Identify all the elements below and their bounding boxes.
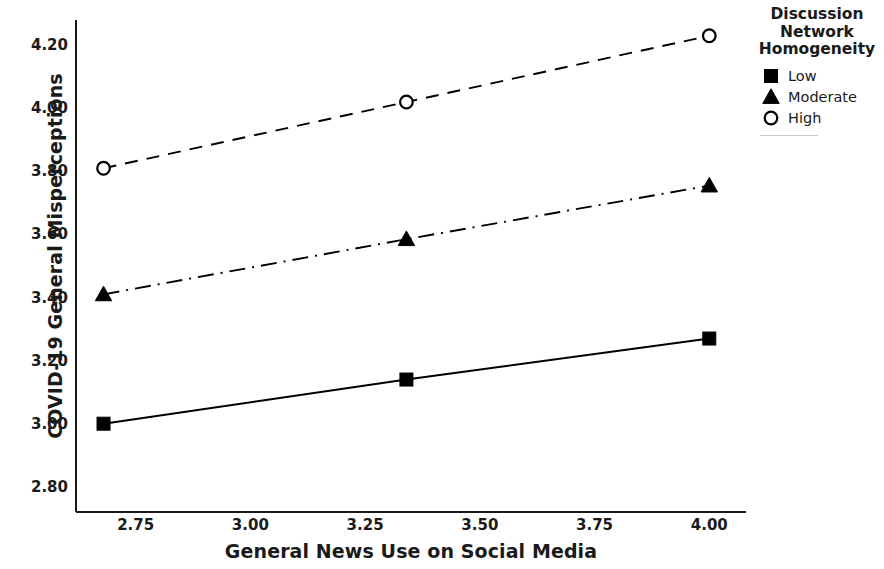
data-point-marker [400,96,413,109]
legend-item-label: High [788,110,821,126]
x-tick-label: 3.00 [215,516,285,534]
series-moderate [95,177,717,300]
x-tick-label: 2.75 [101,516,171,534]
legend-item-label: Low [788,68,817,84]
data-point-marker [765,70,778,83]
x-tick-label: 3.50 [445,516,515,534]
x-axis-title: General News Use on Social Media [76,540,746,562]
data-point-marker [400,373,413,386]
legend-item-label: Moderate [788,89,857,105]
legend-divider [760,135,818,136]
x-tick-label: 4.00 [674,516,744,534]
filled-triangle-icon [758,87,784,107]
x-tick-label: 3.25 [330,516,400,534]
legend-title: Discussion Network Homogeneity [752,6,882,59]
filled-square-icon [758,66,784,86]
data-point-marker [763,89,779,104]
data-point-marker [765,112,778,125]
x-tick-label: 3.75 [560,516,630,534]
legend-item-high[interactable]: High [752,108,882,129]
data-point-marker [97,162,110,175]
series-low [97,332,716,430]
open-circle-icon [758,108,784,128]
legend-item-low[interactable]: Low [752,66,882,87]
legend-items: LowModerateHigh [752,66,882,129]
data-point-marker [701,177,717,192]
chart-figure: COVID-19 General Misperceptions 2.803.00… [0,0,884,569]
legend: Discussion Network Homogeneity LowModera… [752,6,882,136]
data-point-marker [97,417,110,430]
series-layer [95,29,717,430]
series-high [97,29,715,174]
data-point-marker [703,29,716,42]
data-point-marker [703,332,716,345]
data-point-marker [398,231,414,246]
legend-item-moderate[interactable]: Moderate [752,87,882,108]
